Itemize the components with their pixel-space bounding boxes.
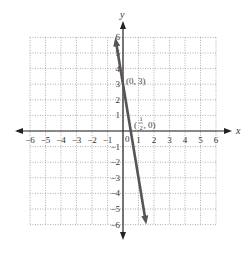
- x-axis-arrow-left-icon: [15, 128, 23, 134]
- line-arrow-bottom-icon: [141, 215, 148, 224]
- y-tick-label: −3: [110, 173, 120, 183]
- y-axis-label: y: [119, 9, 125, 20]
- y-tick-label: −2: [110, 157, 120, 167]
- x-tick-label: −3: [72, 135, 82, 145]
- y-tick-label: −6: [110, 220, 120, 230]
- y-tick-label: 1: [116, 110, 121, 120]
- axes: x y: [15, 9, 241, 240]
- point-label-half-den: 2: [140, 124, 143, 131]
- y-tick-label: −4: [110, 188, 120, 198]
- x-tick-label: 6: [214, 135, 219, 145]
- y-tick-label: 2: [116, 95, 121, 105]
- y-axis-arrow-down-icon: [120, 232, 126, 240]
- point-label-0-3: (0, 3): [126, 76, 146, 86]
- x-tick-labels: −6−5−4−3−2−1123456: [25, 135, 219, 145]
- point-label-half-0-open: (: [134, 120, 137, 130]
- point-label-half-0-rest: , 0): [144, 120, 156, 130]
- x-tick-label: −4: [56, 135, 66, 145]
- y-tick-label: 3: [116, 79, 121, 89]
- chart: x y −6−5−4−3−2−1123456 654321−1−2−3−4−5−…: [0, 0, 248, 257]
- x-tick-label: −6: [25, 135, 35, 145]
- x-tick-label: −5: [41, 135, 51, 145]
- x-tick-label: 5: [198, 135, 203, 145]
- y-axis-arrow-up-icon: [120, 21, 126, 29]
- point-label-half-num: 1: [140, 115, 143, 122]
- x-tick-label: −2: [87, 135, 97, 145]
- x-tick-label: 2: [152, 135, 157, 145]
- x-axis-label: x: [235, 125, 241, 136]
- x-tick-label: 4: [183, 135, 188, 145]
- x-tick-label: 1: [136, 135, 141, 145]
- origin-label: 0: [125, 134, 130, 144]
- y-tick-label: −1: [110, 142, 120, 152]
- y-tick-label: −5: [110, 204, 120, 214]
- x-axis-arrow-right-icon: [224, 128, 232, 134]
- x-tick-label: 3: [167, 135, 172, 145]
